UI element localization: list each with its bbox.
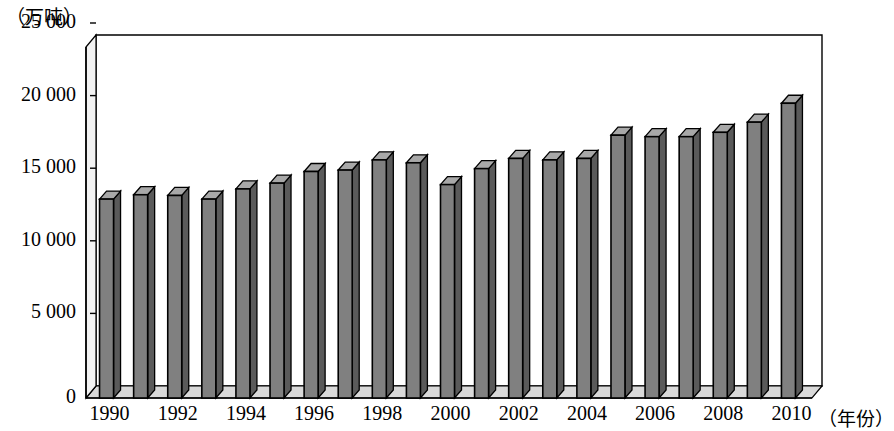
bar-front-face (679, 137, 693, 398)
bar-front-face (270, 183, 284, 398)
bar-front-face (100, 199, 114, 398)
bar-side-face (386, 152, 393, 398)
bar-front-face (372, 160, 386, 398)
bar-front-face (509, 158, 523, 398)
bar-front-face (781, 103, 795, 398)
x-tick-label-2008: 2008 (695, 402, 751, 425)
bar-side-face (455, 177, 462, 398)
bar-2002 (509, 150, 530, 398)
bar-front-face (338, 170, 352, 398)
bar-front-face (611, 135, 625, 398)
x-tick-label-1994: 1994 (218, 402, 274, 425)
bar-2008 (713, 124, 734, 398)
bar-2005 (611, 127, 632, 398)
bar-1994 (236, 181, 257, 398)
bar-front-face (236, 189, 250, 398)
bar-2007 (679, 129, 700, 398)
bar-side-face (625, 127, 632, 398)
bar-2000 (441, 177, 462, 398)
bar-side-face (114, 191, 121, 398)
bar-side-face (420, 155, 427, 398)
x-tick-label-2004: 2004 (559, 402, 615, 425)
bar-1992 (168, 187, 189, 398)
bar-front-face (577, 158, 591, 398)
bar-front-face (645, 137, 659, 398)
x-tick-label-2006: 2006 (627, 402, 683, 425)
x-tick-label-2000: 2000 (423, 402, 479, 425)
bar-1998 (372, 152, 393, 398)
bar-2003 (543, 152, 564, 398)
plot-area (0, 0, 894, 431)
bar-1997 (338, 162, 359, 398)
left-wall (86, 35, 96, 398)
bar-front-face (441, 185, 455, 398)
bar-side-face (795, 95, 802, 398)
bar-2009 (747, 114, 768, 398)
bar-1993 (202, 191, 223, 398)
bar-side-face (148, 187, 155, 398)
bar-2006 (645, 129, 666, 398)
x-tick-label-1996: 1996 (286, 402, 342, 425)
bar-side-face (250, 181, 257, 398)
bar-side-face (284, 175, 291, 398)
bar-side-face (523, 150, 530, 398)
bar-side-face (352, 162, 359, 398)
x-tick-label-1998: 1998 (354, 402, 410, 425)
bar-1990 (100, 191, 121, 398)
bar-2010 (781, 95, 802, 398)
chart-root: （万吨） 05 00010 00015 00020 00025 000 1990… (0, 0, 894, 431)
x-tick-label-1990: 1990 (82, 402, 138, 425)
bar-side-face (727, 124, 734, 398)
bar-front-face (543, 160, 557, 398)
bar-front-face (747, 122, 761, 398)
bar-1999 (406, 155, 427, 398)
bar-side-face (557, 152, 564, 398)
bar-front-face (304, 171, 318, 398)
x-tick-label-1992: 1992 (150, 402, 206, 425)
bar-1995 (270, 175, 291, 398)
x-axis-unit-label: （年份） (818, 404, 894, 431)
bar-2001 (475, 161, 496, 398)
bar-front-face (713, 132, 727, 398)
bar-front-face (406, 163, 420, 398)
x-tick-label-2010: 2010 (763, 402, 819, 425)
x-tick-label-2002: 2002 (491, 402, 547, 425)
bar-side-face (182, 187, 189, 398)
bar-front-face (202, 199, 216, 398)
bar-1991 (134, 187, 155, 398)
bar-side-face (761, 114, 768, 398)
bar-2004 (577, 150, 598, 398)
bar-front-face (475, 169, 489, 398)
bar-side-face (659, 129, 666, 398)
bar-front-face (168, 195, 182, 398)
bar-side-face (216, 191, 223, 398)
chart-svg (0, 0, 894, 431)
bar-front-face (134, 195, 148, 398)
bar-side-face (693, 129, 700, 398)
bar-side-face (318, 163, 325, 398)
bar-side-face (489, 161, 496, 398)
bar-1996 (304, 163, 325, 398)
bar-side-face (591, 150, 598, 398)
